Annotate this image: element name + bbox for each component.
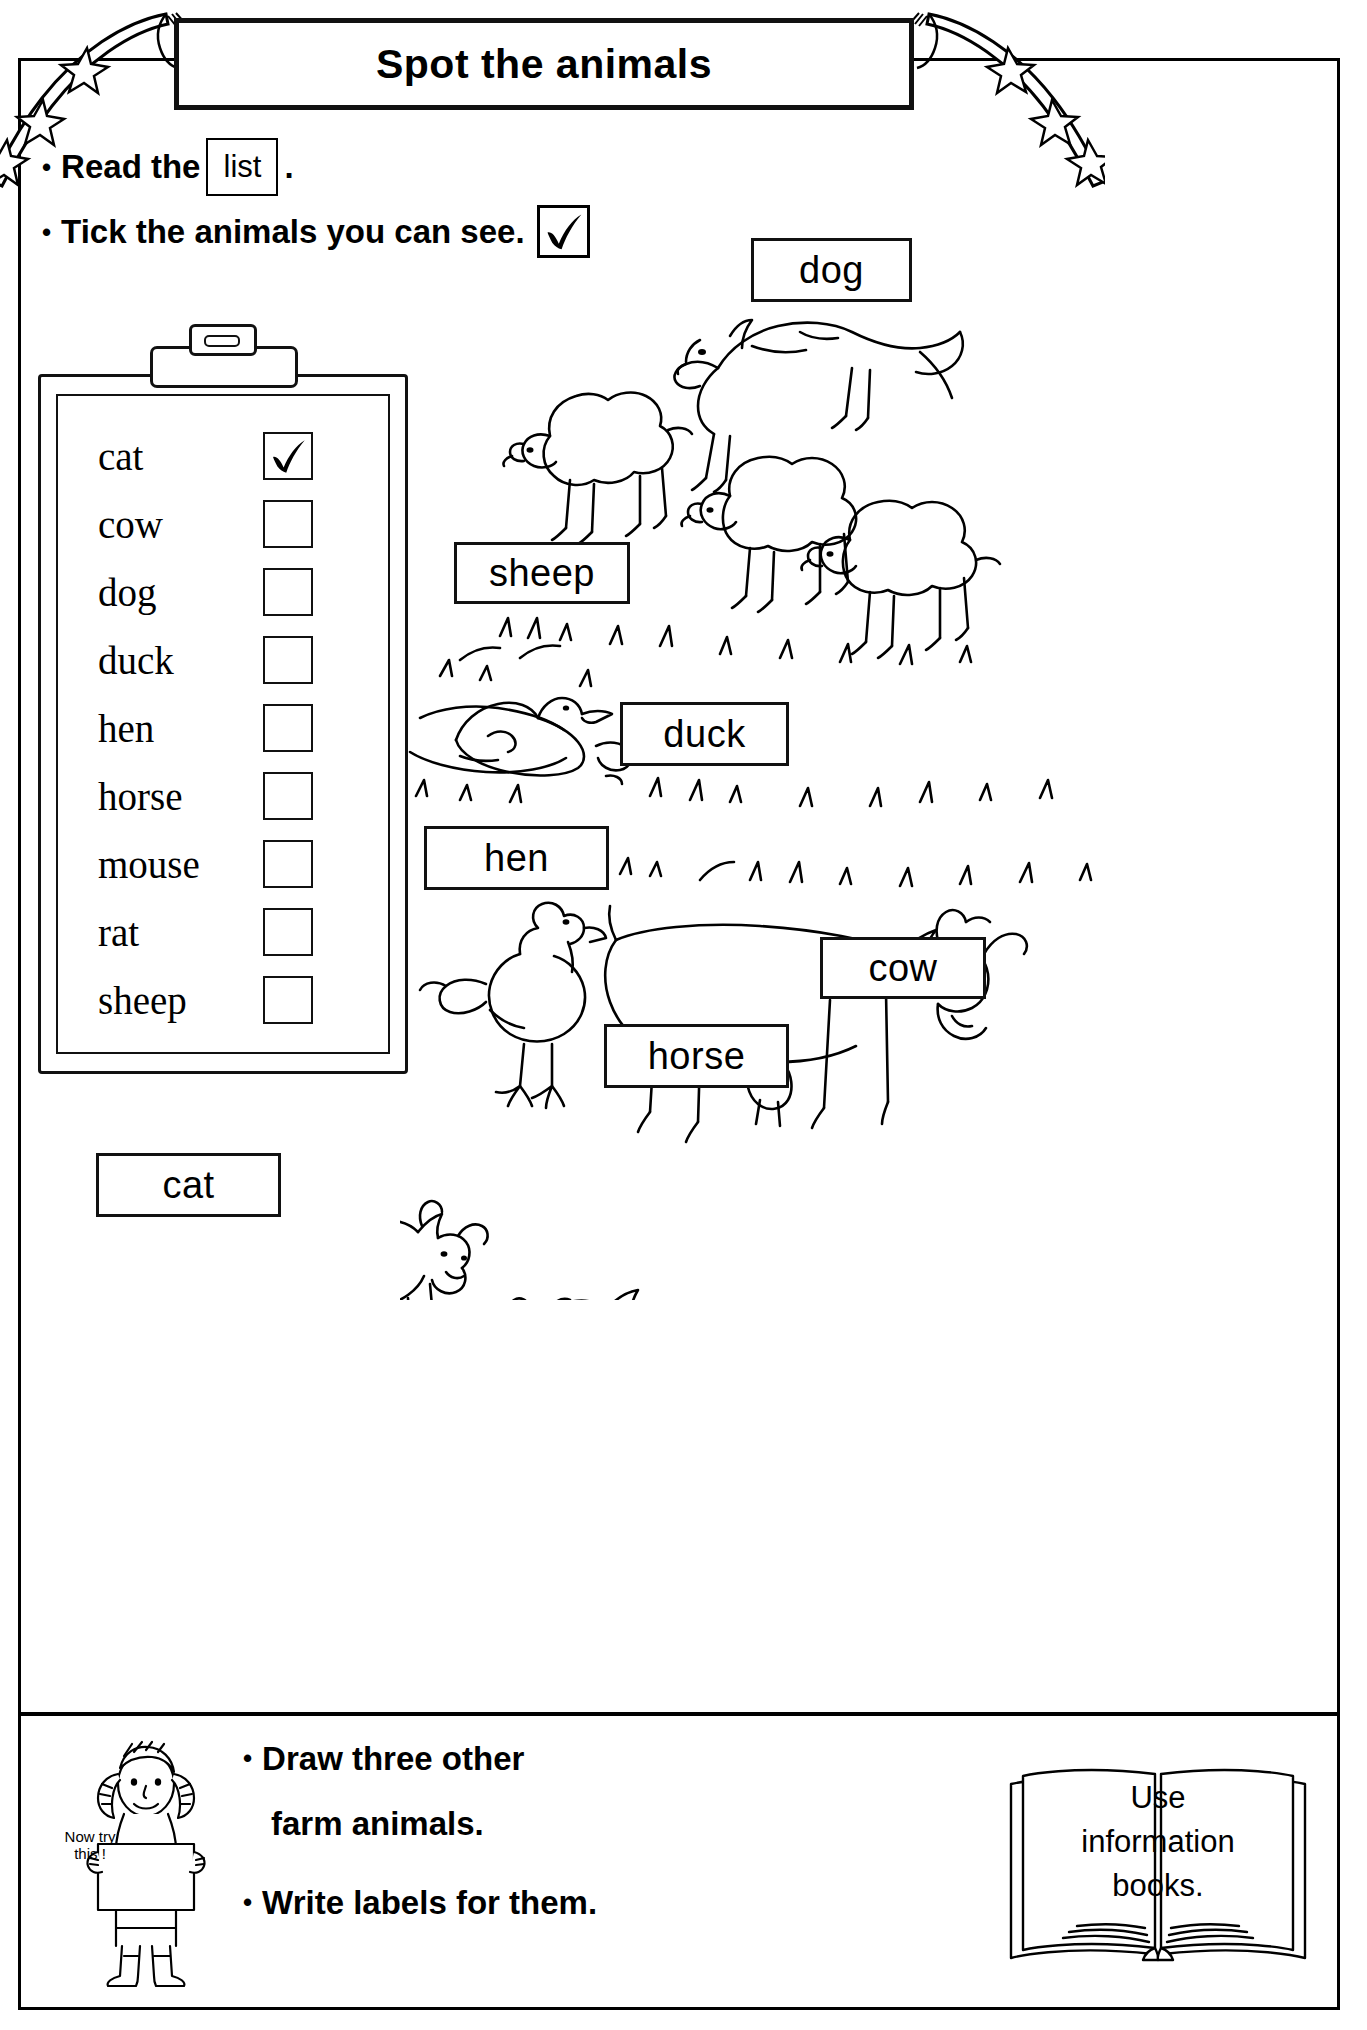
footer-line-text: farm animals. [271, 1807, 484, 1840]
ribbon-banner-right-icon [905, 10, 1105, 200]
picture-label-dog: dog [751, 238, 912, 302]
footer-line-2: farm animals. [243, 1807, 597, 1840]
word-list-checkbox[interactable] [263, 500, 313, 548]
page-title: Spot the animals [376, 41, 712, 88]
sheep-illustration-1 [503, 393, 692, 544]
word-list-row: cow [98, 490, 353, 558]
word-list-row: hen [98, 694, 353, 762]
animal-word-list: catcowdogduckhenhorsemouseratsheep [98, 422, 353, 1034]
word-list-row: horse [98, 762, 353, 830]
sign-line-1: Now try [44, 1828, 136, 1845]
word-list-checkbox[interactable] [263, 976, 313, 1024]
footer-instructions: • Draw three other farm animals. • Write… [243, 1742, 597, 1919]
picture-label-cow: cow [820, 937, 986, 999]
word-list-label: cow [98, 505, 263, 544]
instruction-suffix: . [284, 148, 293, 186]
word-list-row: rat [98, 898, 353, 966]
dog-illustration [674, 320, 962, 492]
book-line-3: books. [1003, 1864, 1313, 1908]
list-chip[interactable]: list [206, 138, 278, 196]
word-list-label: rat [98, 913, 263, 952]
bullet-icon: • [42, 219, 51, 245]
cat-illustration [400, 1169, 488, 1300]
word-list-checkbox[interactable] [263, 840, 313, 888]
word-list-checkbox[interactable] [263, 772, 313, 820]
duck-illustration [410, 698, 631, 784]
picture-label-hen: hen [424, 826, 609, 890]
word-list-row: mouse [98, 830, 353, 898]
picture-label-horse: horse [604, 1024, 789, 1088]
bullet-icon: • [243, 1886, 252, 1919]
footer-line-text: Draw three other [262, 1742, 524, 1775]
horse-illustration [496, 1290, 932, 1300]
word-list-row: dog [98, 558, 353, 626]
picture-label-duck: duck [620, 702, 789, 766]
book-text: Use information books. [1003, 1776, 1313, 1908]
open-book-icon: Use information books. [1003, 1746, 1313, 1976]
word-list-label: hen [98, 709, 263, 748]
word-list-label: cat [98, 437, 263, 476]
book-line-1: Use [1003, 1776, 1313, 1820]
picture-label-cat: cat [96, 1153, 281, 1217]
word-list-checkbox[interactable] [263, 704, 313, 752]
word-list-row: cat [98, 422, 353, 490]
ribbon-banner-left-icon [0, 10, 190, 200]
footer-line-3: • Write labels for them. [243, 1886, 597, 1919]
word-list-checkbox[interactable] [263, 908, 313, 956]
word-list-checkbox[interactable] [263, 568, 313, 616]
clipboard-icon: catcowdogduckhenhorsemouseratsheep [38, 374, 408, 1074]
word-list-label: duck [98, 641, 263, 680]
footer-line-1: • Draw three other [243, 1742, 597, 1775]
word-list-label: sheep [98, 981, 263, 1020]
bullet-icon: • [243, 1742, 252, 1775]
clipboard-clamp-top [189, 324, 257, 356]
word-list-row: sheep [98, 966, 353, 1034]
sheep-illustration-2 [681, 457, 856, 612]
footer-line-text: Write labels for them. [262, 1886, 597, 1919]
word-list-label: horse [98, 777, 263, 816]
check-mark-icon [265, 434, 311, 478]
farm-scene-illustration [400, 240, 1335, 1300]
now-try-this-panel: Now try this ! • Draw three other farm a… [18, 1712, 1340, 2010]
clipboard-clamp-hole [204, 335, 240, 347]
girl-with-sign-icon [76, 1740, 216, 1990]
title-banner: Spot the animals [174, 18, 914, 110]
word-list-row: duck [98, 626, 353, 694]
word-list-label: mouse [98, 845, 263, 884]
worksheet-page: Spot the animals • Read the list . • Tic… [0, 0, 1367, 2030]
word-list-label: dog [98, 573, 263, 612]
sign-line-2: this ! [44, 1845, 136, 1862]
hen-illustration [420, 903, 606, 1108]
book-line-2: information [1003, 1820, 1313, 1864]
now-try-this-sign: Now try this ! [44, 1828, 136, 1863]
word-list-checkbox[interactable] [263, 636, 313, 684]
picture-label-sheep: sheep [454, 542, 630, 604]
word-list-checkbox[interactable] [263, 432, 313, 480]
sheep-illustration-3 [801, 501, 1000, 658]
